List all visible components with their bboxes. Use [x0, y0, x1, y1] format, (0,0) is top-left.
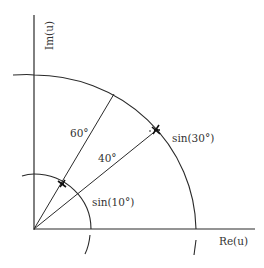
outer-arc-label: sin(30°): [172, 132, 214, 144]
angle-label-40: 40°: [98, 152, 117, 164]
imaginary-axis-label: Im(u): [43, 21, 55, 50]
angle-label-60: 60°: [70, 127, 89, 139]
real-axis-label: Re(u): [219, 235, 248, 247]
ray-40: [34, 129, 158, 229]
outer-arc-tick: [194, 240, 196, 255]
complex-plane-diagram: Im(u) Re(u) 60° 40° sin(30°) sin(10°): [0, 0, 264, 268]
inner-arc: [22, 174, 91, 229]
inner-arc-label: sin(10°): [92, 196, 134, 208]
inner-arc-tail: [85, 235, 90, 254]
